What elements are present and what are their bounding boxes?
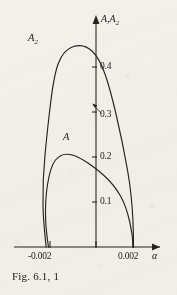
y-tick-label-0.3: 0.3 [100, 110, 111, 120]
y-axis [93, 15, 100, 247]
y-axis-title-part1: A, [101, 13, 110, 24]
curve-label-A2-subscript: 2 [34, 38, 38, 46]
y-axis-title: A,A2 [101, 14, 119, 27]
y-tick-label-0.4: 0.4 [100, 62, 111, 72]
x-tick-label-neg0.002: -0.002 [28, 252, 51, 262]
y-tick-label-0.1: 0.1 [100, 197, 111, 207]
figure-caption: Fig. 6.1, 1 [12, 271, 59, 282]
x-tick-label-pos0.002: 0.002 [118, 252, 138, 262]
x-axis-symbol: α [152, 251, 157, 261]
curve-label-A: A [63, 132, 69, 143]
y-tick-label-0.2: 0.2 [100, 152, 111, 162]
curve-A2 [43, 46, 134, 247]
x-axis [14, 244, 160, 251]
plot-canvas [0, 0, 177, 295]
y-axis-title-subscript: 2 [116, 19, 120, 27]
figure-container: A,A2 0.4 0.3 0.2 0.1 -0.002 0.002 α A2 A… [0, 0, 177, 295]
curve-A [45, 154, 133, 247]
curve-label-A2: A2 [28, 33, 38, 46]
y-axis-arrowhead [93, 15, 100, 24]
